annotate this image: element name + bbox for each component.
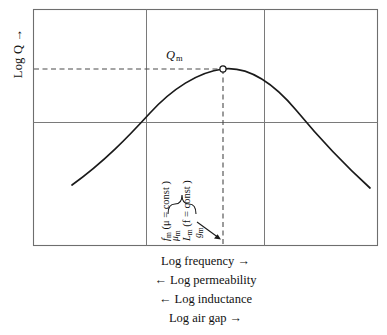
peak-marker: [220, 66, 226, 72]
annotation-mum-symbol: μ: [170, 236, 180, 241]
caption-log-permeability: ← Log permeability: [33, 271, 378, 290]
annotation-lm-condition: (f = const ): [181, 180, 192, 226]
peak-label: Qm: [166, 48, 183, 63]
bottom-caption-block: Log frequency → ← Log permeability ← Log…: [33, 252, 378, 328]
annotation-gm-symbol: g: [193, 233, 203, 238]
caption-log-air-gap: Log air gap →: [33, 309, 378, 328]
plot-frame: [34, 10, 378, 246]
caption-log-frequency: Log frequency →: [33, 252, 378, 271]
annotation-gm-subscript: m: [196, 227, 205, 233]
annotation-mum: μm: [170, 230, 180, 241]
y-axis-label: Log Q →: [11, 8, 26, 100]
peak-label-subscript: m: [175, 53, 183, 63]
annotation-lm-symbol: L: [181, 235, 192, 241]
annotation-lm: Lm (f = const ): [181, 180, 192, 241]
peak-label-symbol: Q: [166, 48, 175, 62]
figure-container: Log Q → Qm fm (μ = const ) μm Lm (f = c: [0, 0, 387, 335]
annotation-gm: gm: [193, 227, 203, 238]
annotation-fm-condition: (μ = const ): [160, 181, 171, 230]
caption-log-inductance: ← Log inductance: [33, 290, 378, 309]
